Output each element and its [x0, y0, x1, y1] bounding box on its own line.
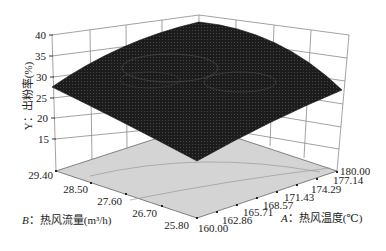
z-tick-40: 40 — [35, 29, 47, 41]
z-tick-35: 35 — [35, 50, 47, 62]
b-tick-28.50: 28.50 — [63, 183, 88, 195]
z-tick-30: 30 — [36, 71, 48, 83]
b-tick-26.70: 26.70 — [132, 207, 157, 219]
surface-plot: 40 35 30 25 20 15 Y：出粉率(%) 29.40 28.50 2… — [0, 0, 386, 251]
z-tick-20: 20 — [37, 112, 49, 124]
b-tick-29.40: 29.40 — [28, 169, 53, 181]
a-tick-180.00: 180.00 — [340, 165, 371, 177]
z-axis-label: Y：出粉率(%) — [21, 61, 35, 130]
a-axis-label: A：热风温度(℃) — [280, 211, 363, 225]
z-tick-15: 15 — [38, 133, 50, 145]
b-tick-27.60: 27.60 — [97, 195, 122, 207]
z-tick-25: 25 — [36, 92, 48, 104]
b-axis-label: B：热风流量(m³/h) — [22, 213, 112, 227]
z-axis: 40 35 30 25 20 15 Y：出粉率(%) — [21, 29, 56, 145]
response-surface — [52, 22, 342, 161]
b-tick-25.80: 25.80 — [164, 219, 189, 231]
